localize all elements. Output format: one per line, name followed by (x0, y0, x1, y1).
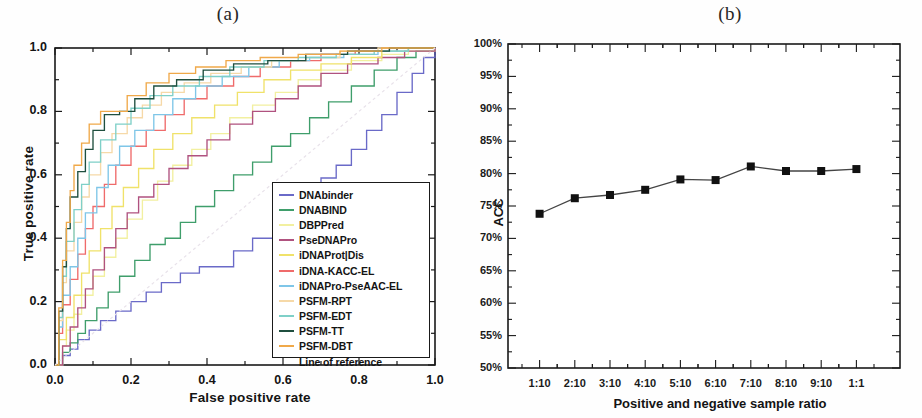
panel-a-y-tick: 0.2 (11, 294, 47, 308)
legend-item-psfm-dbt: PSFM-DBT (275, 339, 429, 354)
legend-item-psednapro: PseDNAPro (275, 233, 429, 248)
legend-item-dbppred: DBPPred (275, 217, 429, 232)
accuracy-data-point (606, 191, 614, 199)
legend-item-label: iDNAProt|Dis (299, 249, 364, 261)
panel-a-y-tick: 0.6 (11, 167, 47, 181)
legend-item-dnabind: DNABIND (275, 202, 429, 217)
panel-b-y-tick: 70% (462, 231, 502, 243)
panel-b-y-tick: 90% (462, 102, 502, 114)
legend-color-swatch (279, 345, 294, 347)
accuracy-data-point (852, 165, 860, 173)
panel-b-y-tick: 100% (462, 37, 502, 49)
legend-item-label: PseDNAPro (299, 234, 357, 246)
panel-b-x-tick: 1:1 (834, 377, 878, 389)
legend-item-label: PSFM-RPT (299, 295, 352, 307)
accuracy-data-point (536, 210, 544, 218)
panel-b-accuracy-chart: (b) Positive and negative sample ratio A… (460, 0, 922, 418)
legend-item-label: PSFM-DBT (299, 340, 352, 352)
panel-b-x-axis-title: Positive and negative sample ratio (520, 396, 920, 411)
legend-item-label: DBPPred (299, 219, 344, 231)
panel-a-x-tick: 0.0 (35, 373, 75, 387)
accuracy-data-point (641, 186, 649, 194)
panel-a-y-tick: 1.0 (11, 40, 47, 54)
accuracy-plot-canvas (460, 0, 922, 418)
panel-a-y-tick: 0.0 (11, 357, 47, 371)
panel-a-x-tick: 0.4 (187, 373, 227, 387)
legend-item-label: iDNA-KACC-EL (299, 265, 374, 277)
legend-color-swatch (279, 300, 294, 302)
roc-legend: DNAbinderDNABINDDBPPredPseDNAProiDNAProt… (272, 182, 430, 358)
panel-b-y-tick: 95% (462, 69, 502, 81)
accuracy-data-point (712, 176, 720, 184)
panel-a-x-tick: 0.6 (263, 373, 303, 387)
accuracy-data-point (747, 162, 755, 170)
legend-item-label: PSFM-EDT (299, 310, 352, 322)
legend-item-label: DNAbinder (299, 189, 353, 201)
legend-item-psfm-edt: PSFM-EDT (275, 309, 429, 324)
panel-b-y-tick: 55% (462, 329, 502, 341)
panel-a-x-axis-title: False positive rate (60, 390, 440, 405)
legend-color-swatch (279, 254, 294, 256)
panel-b-y-tick: 65% (462, 264, 502, 276)
legend-item-label: Line of reference (299, 356, 382, 368)
legend-color-swatch (279, 330, 294, 332)
panel-a-x-tick: 0.8 (339, 373, 379, 387)
panel-a-y-tick: 0.4 (11, 230, 47, 244)
legend-item-label: iDNAPro-PseAAC-EL (299, 280, 402, 292)
accuracy-data-point (782, 167, 790, 175)
panel-a-y-tick: 0.8 (11, 103, 47, 117)
legend-item-idnaprot-dis: iDNAProt|Dis (275, 248, 429, 263)
legend-item-psfm-tt: PSFM-TT (275, 324, 429, 339)
panel-b-y-tick: 50% (462, 361, 502, 373)
legend-color-swatch (279, 315, 294, 317)
panel-b-y-tick: 85% (462, 134, 502, 146)
legend-color-swatch (279, 209, 294, 211)
panel-a-y-axis-title: True positive rate (21, 114, 36, 294)
legend-item-line-of-reference: Line of reference (275, 354, 429, 369)
legend-item-dnabinder: DNAbinder (275, 187, 429, 202)
panel-b-y-tick: 75% (462, 199, 502, 211)
panel-b-y-tick: 60% (462, 296, 502, 308)
panel-a-roc-curves: (a) False positive rate True positive ra… (0, 0, 460, 418)
legend-color-swatch (279, 239, 294, 241)
legend-color-swatch (279, 270, 294, 272)
accuracy-data-point (571, 194, 579, 202)
legend-item-label: DNABIND (299, 204, 347, 216)
legend-item-idnapro-pseaac-el: iDNAPro-PseAAC-EL (275, 278, 429, 293)
figure-root: (a) False positive rate True positive ra… (0, 0, 922, 418)
legend-color-swatch (279, 224, 294, 226)
legend-color-swatch (279, 361, 294, 363)
legend-color-swatch (279, 194, 294, 196)
legend-item-idna-kacc-el: iDNA-KACC-EL (275, 263, 429, 278)
legend-item-label: PSFM-TT (299, 325, 344, 337)
legend-item-psfm-rpt: PSFM-RPT (275, 293, 429, 308)
legend-color-swatch (279, 285, 294, 287)
panel-b-y-tick: 80% (462, 167, 502, 179)
accuracy-data-point (817, 167, 825, 175)
accuracy-data-point (676, 175, 684, 183)
panel-a-x-tick: 0.2 (111, 373, 151, 387)
panel-a-x-tick: 1.0 (415, 373, 455, 387)
